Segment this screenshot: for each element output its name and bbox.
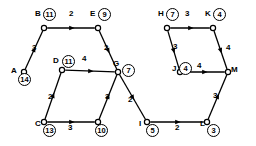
node-letter-label: C — [35, 120, 41, 128]
node-letter-label: J — [172, 65, 176, 73]
node-value-badge: 10 — [95, 124, 108, 137]
node-letter-label: I — [139, 120, 141, 128]
graph-node-h[interactable] — [164, 25, 169, 30]
edge-weight: 4 — [82, 55, 86, 63]
node-value-badge: 11 — [62, 55, 75, 68]
edge-weight: 3 — [68, 124, 72, 132]
node-value-badge: 7 — [166, 8, 179, 21]
edge-weight: 2 — [175, 124, 179, 132]
node-value-badge: 13 — [43, 124, 56, 137]
node-value-badge: 11 — [43, 8, 56, 21]
edge-arrowhead — [202, 70, 207, 74]
node-value-badge: 4 — [179, 62, 192, 75]
edge-weight: 2 — [48, 93, 52, 101]
graph-diagram: 32242332234334A14B11E9D11G7C1310I5L3MH7K… — [0, 0, 256, 146]
edge-arrowhead — [69, 26, 74, 30]
edge-arrowhead — [188, 26, 193, 30]
graph-node-b[interactable] — [41, 25, 46, 30]
node-value-badge: 14 — [18, 73, 31, 86]
graph-node-d[interactable] — [59, 67, 64, 72]
edge-weight: 3 — [185, 10, 189, 18]
edge-arrowhead — [218, 48, 222, 54]
node-value-badge: 3 — [207, 124, 220, 137]
edge-weight: 3 — [213, 92, 217, 100]
node-letter-label: D — [53, 57, 59, 65]
edge-arrowhead — [88, 69, 93, 73]
graph-node-l[interactable] — [204, 119, 209, 124]
edge-weight: 3 — [173, 43, 177, 51]
node-letter-label: G — [113, 60, 119, 68]
node-letter-label: E — [90, 10, 95, 18]
node-value-badge: 4 — [213, 8, 226, 21]
edge-weight: 2 — [128, 96, 132, 104]
node-letter-label: H — [158, 10, 164, 18]
node-letter-label: L — [200, 120, 205, 128]
node-letter-label: A — [11, 67, 17, 75]
node-value-badge: 9 — [98, 8, 111, 21]
edge-weight: 3 — [32, 44, 36, 52]
graph-node-k[interactable] — [210, 25, 215, 30]
edge-weight: 4 — [226, 44, 230, 52]
node-letter-label: K — [205, 10, 211, 18]
edge-weight: 2 — [104, 44, 108, 52]
edge-weight: 3 — [105, 93, 109, 101]
node-value-badge: 7 — [122, 64, 135, 77]
node-letter-label: B — [35, 10, 41, 18]
graph-node-m[interactable] — [225, 69, 230, 74]
edge-weight: 4 — [197, 62, 201, 70]
graph-node-g[interactable] — [115, 69, 120, 74]
node-value-badge: 5 — [146, 124, 159, 137]
node-letter-label: M — [231, 66, 238, 74]
graph-node-e[interactable] — [95, 25, 100, 30]
edge-weight: 2 — [69, 10, 73, 18]
